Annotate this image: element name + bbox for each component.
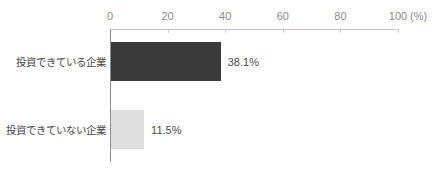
bar-not-investing-companies xyxy=(111,110,144,149)
x-tick-mark xyxy=(340,29,341,33)
x-tick-label: 0 xyxy=(107,10,113,23)
x-tick-label: 60 xyxy=(277,10,289,23)
x-tick-mark xyxy=(168,29,169,33)
x-tick-mark xyxy=(398,29,399,33)
x-tick-mark xyxy=(225,29,226,33)
x-axis-line xyxy=(110,29,398,30)
value-label: 11.5% xyxy=(151,123,181,137)
x-tick-mark xyxy=(283,29,284,33)
x-tick-label: 80 xyxy=(334,10,346,23)
x-tick-label: 40 xyxy=(219,10,231,23)
category-label: 投資できていない企業 xyxy=(6,123,106,137)
value-label: 38.1% xyxy=(228,55,259,69)
bar-investing-companies xyxy=(111,42,221,81)
category-label: 投資できている企業 xyxy=(16,55,106,69)
x-tick-label: 100 xyxy=(389,10,407,23)
bar-chart: 020406080100 (%) 投資できている企業 38.1% 投資できていな… xyxy=(0,0,445,177)
x-tick-label: 20 xyxy=(161,10,173,23)
x-axis-unit-label: (%) xyxy=(410,10,427,23)
